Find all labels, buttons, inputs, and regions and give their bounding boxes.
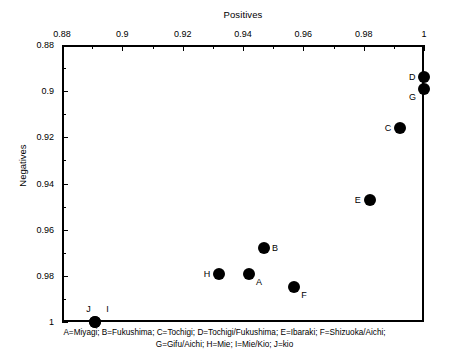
x-tick-label: 1	[421, 29, 426, 39]
data-point-c	[394, 122, 406, 134]
legend-caption: A=Miyagi; B=Fukushima; C=Tochigi; D=Toch…	[0, 327, 449, 350]
y-tick-minor	[62, 207, 66, 208]
y-tick-major	[62, 184, 68, 185]
y-tick-major	[62, 322, 68, 323]
y-tick-minor	[62, 253, 66, 254]
x-tick-major	[364, 45, 365, 51]
y-tick-major	[62, 230, 68, 231]
data-point-label-i: I	[106, 304, 109, 314]
data-point-b	[258, 242, 270, 254]
x-tick-label: 0.94	[234, 29, 252, 39]
x-tick-minor	[273, 45, 274, 49]
data-point-label-b: B	[272, 243, 278, 253]
data-point-label-c: C	[385, 123, 392, 133]
x-tick-major	[122, 45, 123, 51]
y-tick-label: 0.94	[0, 179, 54, 189]
y-tick-minor	[62, 68, 66, 69]
y-tick-label: 0.9	[0, 86, 54, 96]
data-point-label-d: D	[409, 72, 416, 82]
data-point-label-h: H	[204, 269, 211, 279]
y-tick-label: 0.92	[0, 132, 54, 142]
y-tick-minor	[62, 160, 66, 161]
data-point-h	[213, 268, 225, 280]
x-tick-label: 0.9	[116, 29, 129, 39]
x-tick-minor	[213, 45, 214, 49]
x-tick-minor	[92, 45, 93, 49]
y-tick-label: 1	[0, 317, 54, 327]
scatter-chart-figure: Positives Negatives 0.880.90.920.940.960…	[0, 0, 449, 359]
legend-caption-line-2: G=Gifu/Aichi; H=Mie; I=Mie/Kio; J=kio	[0, 339, 449, 351]
x-tick-label: 0.88	[53, 29, 71, 39]
y-tick-label: 0.98	[0, 271, 54, 281]
y-tick-major	[62, 137, 68, 138]
data-point-label-f: F	[301, 290, 307, 300]
y-tick-major	[62, 45, 68, 46]
legend-caption-line-1: A=Miyagi; B=Fukushima; C=Tochigi; D=Toch…	[0, 327, 449, 339]
x-tick-major	[183, 45, 184, 51]
data-point-label-g: G	[409, 92, 416, 102]
x-tick-label: 0.96	[295, 29, 313, 39]
y-tick-minor	[62, 299, 66, 300]
x-tick-minor	[394, 45, 395, 49]
data-point-e	[364, 194, 376, 206]
x-tick-label: 0.98	[355, 29, 373, 39]
data-point-label-j: J	[86, 304, 91, 314]
x-tick-label: 0.92	[174, 29, 192, 39]
plot-area	[62, 45, 424, 322]
data-point-a	[243, 268, 255, 280]
data-point-label-a: A	[256, 277, 262, 287]
y-tick-minor	[62, 114, 66, 115]
y-tick-major	[62, 91, 68, 92]
data-point-g	[418, 83, 430, 95]
y-tick-label: 0.88	[0, 40, 54, 50]
x-tick-major	[424, 45, 425, 51]
y-tick-major	[62, 276, 68, 277]
data-point-label-e: E	[355, 195, 361, 205]
x-tick-minor	[334, 45, 335, 49]
x-axis-title: Positives	[62, 9, 424, 20]
x-tick-major	[243, 45, 244, 51]
data-point-d	[418, 71, 430, 83]
data-point-f	[288, 281, 300, 293]
x-tick-minor	[153, 45, 154, 49]
x-tick-major	[303, 45, 304, 51]
y-tick-label: 0.96	[0, 225, 54, 235]
